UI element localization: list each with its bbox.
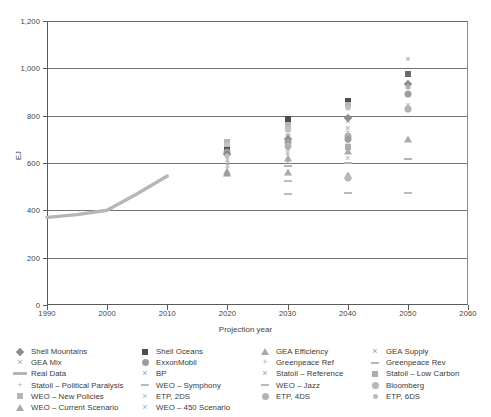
legend-item[interactable]: WEO – Symphony	[137, 380, 230, 391]
legend-label: BP	[156, 369, 167, 378]
legend-column: Shell OceansExxonMobil×BPWEO – Symphony×…	[137, 346, 230, 413]
x-tick-label: 2050	[385, 309, 431, 318]
marker-diamond-icon	[17, 349, 23, 355]
x-tick-mark	[348, 305, 349, 310]
data-point	[284, 193, 292, 195]
plot-area: ×××+××+×××+××××+	[47, 21, 468, 305]
marker-plus-icon: +	[17, 381, 22, 390]
marker-dash-icon	[404, 158, 412, 160]
marker-plus-icon: +	[262, 358, 267, 367]
legend-item[interactable]: ETP, 4DS	[257, 391, 343, 402]
legend-label: WEO – Symphony	[156, 381, 221, 390]
marker-plus-icon: +	[405, 107, 410, 116]
x-tick-mark	[167, 305, 168, 310]
y-tick-label: 200	[0, 253, 40, 262]
x-tick-label: 2000	[84, 309, 130, 318]
marker-triangle-icon	[284, 168, 292, 175]
data-point	[345, 106, 350, 111]
legend-item[interactable]: ×WEO – 450 Scenario	[137, 402, 230, 413]
marker-dash-icon	[284, 193, 292, 195]
x-tick-label: 1990	[24, 309, 70, 318]
legend-marker	[12, 402, 28, 413]
x-tick-mark	[468, 305, 469, 310]
data-point	[344, 162, 352, 164]
legend-label: GEA Efficiency	[276, 347, 328, 356]
legend-item[interactable]: Statoil – Low Carbon	[367, 368, 459, 379]
legend-item[interactable]: WEO – New Policies	[12, 391, 123, 402]
legend-label: Greenpeace Ref	[276, 358, 334, 367]
legend-label: Bloomberg	[386, 381, 424, 390]
data-point	[284, 165, 292, 167]
marker-dot-icon	[373, 394, 378, 399]
legend-marker: ×	[137, 391, 153, 402]
x-tick-mark	[408, 305, 409, 310]
x-axis-title: Projection year	[0, 325, 491, 334]
marker-circle-icon	[344, 174, 351, 181]
energy-projection-chart-figure: EJ 02004006008001,0001,200 ×××+××+×××+××…	[0, 0, 491, 417]
legend-label: Shell Mountains	[31, 347, 87, 356]
marker-square-icon	[285, 126, 291, 132]
legend-marker: ×	[12, 357, 28, 368]
data-points-layer: ×××+××+×××+××××+	[47, 21, 468, 305]
legend-item[interactable]: WEO – Current Scenario	[12, 402, 123, 413]
marker-dash-icon	[141, 384, 149, 386]
marker-line-icon	[13, 372, 27, 375]
marker-triangle-icon	[16, 404, 24, 411]
legend-item[interactable]: Real Data	[12, 368, 123, 379]
legend-marker: ×	[137, 402, 153, 413]
y-tick-label: 800	[0, 111, 40, 120]
legend-item[interactable]: Shell Oceans	[137, 346, 230, 357]
legend-item[interactable]: ×Statoil – Reference	[257, 368, 343, 379]
data-point	[404, 192, 412, 194]
legend-label: GEA Mix	[31, 358, 62, 367]
x-tick-mark	[288, 305, 289, 310]
legend-marker: ×	[367, 346, 383, 357]
legend-item[interactable]: WEO – Jazz	[257, 380, 343, 391]
legend-item[interactable]: +Greenpeace Ref	[257, 357, 343, 368]
legend-marker	[367, 380, 383, 391]
legend-marker: +	[12, 380, 28, 391]
marker-cross-icon: ×	[142, 392, 147, 401]
marker-circle-icon	[262, 393, 269, 400]
data-point	[344, 192, 352, 194]
x-tick-label: 2030	[265, 309, 311, 318]
legend-label: WEO – Jazz	[276, 381, 320, 390]
legend-label: WEO – New Policies	[31, 392, 104, 401]
legend-marker	[137, 380, 153, 391]
legend-item[interactable]: Bloomberg	[367, 380, 459, 391]
x-tick-label: 2010	[144, 309, 190, 318]
legend-label: ETP, 2DS	[156, 392, 190, 401]
legend-label: Greenpeace Rev	[386, 358, 446, 367]
legend-item[interactable]: ×GEA Mix	[12, 357, 123, 368]
legend-marker	[12, 391, 28, 402]
legend-marker	[257, 391, 273, 402]
legend-item[interactable]: Shell Mountains	[12, 346, 123, 357]
legend-marker	[367, 368, 383, 379]
legend-item[interactable]: ×ETP, 2DS	[137, 391, 230, 402]
y-tick-label: 400	[0, 206, 40, 215]
legend-marker	[367, 391, 383, 402]
marker-cross-icon: ×	[142, 369, 147, 378]
legend-item[interactable]: ETP, 6DS	[367, 391, 459, 402]
legend-marker	[367, 357, 383, 368]
data-point	[404, 91, 411, 98]
data-point: ×	[405, 54, 410, 63]
marker-dash-icon	[261, 384, 269, 386]
legend-item[interactable]: GEA Efficiency	[257, 346, 343, 357]
data-point: +	[405, 107, 410, 116]
legend-item[interactable]: +Statoil – Political Paralysis	[12, 380, 123, 391]
x-tick-mark	[227, 305, 228, 310]
x-tick-label: 2040	[325, 309, 371, 318]
data-point	[223, 170, 231, 177]
legend-label: GEA Supply	[386, 347, 429, 356]
data-point	[405, 84, 410, 89]
marker-dot-icon	[405, 84, 410, 89]
data-point	[284, 168, 292, 175]
legend-item[interactable]: ×GEA Supply	[367, 346, 459, 357]
legend-label: Statoil – Low Carbon	[386, 369, 459, 378]
legend-item[interactable]: ExxonMobil	[137, 357, 230, 368]
legend-item[interactable]: Greenpeace Rev	[367, 357, 459, 368]
marker-dash-icon	[344, 162, 352, 164]
legend-label: ETP, 4DS	[276, 392, 310, 401]
legend-item[interactable]: ×BP	[137, 368, 230, 379]
